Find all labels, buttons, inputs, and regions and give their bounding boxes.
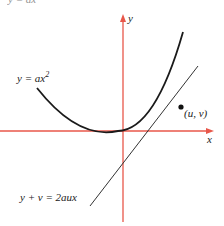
tangent-line bbox=[90, 66, 198, 206]
parabola-tangent-diagram: y = ax² y x (u, v) y = ax2 y + v = 2aux bbox=[0, 0, 224, 226]
top-caption-partial: y = ax² bbox=[7, 0, 40, 5]
x-axis-label: x bbox=[206, 133, 212, 145]
y-axis-arrow-icon bbox=[120, 14, 126, 22]
curve-label: y = ax2 bbox=[16, 70, 49, 84]
parabola-curve bbox=[37, 32, 183, 132]
y-axis-label: y bbox=[127, 12, 133, 24]
point-label: (u, v) bbox=[184, 107, 208, 120]
tangent-label: y + v = 2aux bbox=[19, 191, 77, 203]
tangency-point bbox=[178, 104, 183, 109]
